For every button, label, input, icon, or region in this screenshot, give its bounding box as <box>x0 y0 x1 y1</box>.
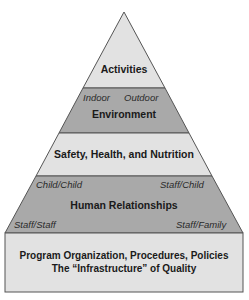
base-label-line1: Program Organization, Procedures, Polici… <box>20 250 229 261</box>
safety-label: Safety, Health, and Nutrition <box>54 148 194 160</box>
staff-family-label: Staff/Family <box>176 219 226 230</box>
indoor-label: Indoor <box>83 92 110 103</box>
outdoor-label: Outdoor <box>124 92 158 103</box>
child-child-label: Child/Child <box>36 179 82 190</box>
staff-staff-label: Staff/Staff <box>14 219 56 230</box>
activities-label: Activities <box>101 63 148 75</box>
layer-activities <box>83 12 165 88</box>
base-label-line2: The “Infrastructure” of Quality <box>52 263 196 274</box>
staff-child-label: Staff/Child <box>160 179 204 190</box>
environment-label: Environment <box>92 108 156 120</box>
human-relationships-label: Human Relationships <box>70 199 177 211</box>
